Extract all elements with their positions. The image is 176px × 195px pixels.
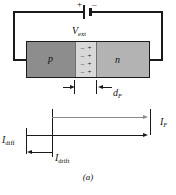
idrift-label: Idrift [55, 148, 70, 164]
p-region-label: p [48, 54, 53, 64]
battery-negative-plate [89, 8, 92, 16]
wire-left-vertical [13, 11, 15, 60]
idrift-subscript: drift [58, 157, 69, 164]
charge-row: –+ [75, 53, 97, 60]
charge-minus: – [79, 61, 86, 68]
wire-top-left [13, 11, 83, 13]
idiff-subscript: diff [5, 139, 14, 146]
if-label: IF [160, 112, 167, 128]
n-region-label: n [115, 55, 120, 65]
wire-top-right [92, 11, 162, 13]
current-reference-line-right [150, 109, 151, 135]
battery-positive-plate [83, 5, 85, 19]
idiff-arrowhead [143, 133, 148, 137]
charge-row: –+ [75, 61, 97, 68]
semiconductor-block: –+ –+ –+ –+ [26, 41, 150, 78]
figure-caption: (a) [0, 173, 176, 182]
charge-plus: + [86, 53, 93, 60]
if-subscript: F [163, 121, 167, 128]
charge-minus: – [79, 45, 86, 52]
wire-right-vertical [161, 11, 163, 60]
depletion-width-arrowhead [70, 85, 75, 89]
if-arrowhead [143, 115, 148, 119]
idrift-arrowhead [27, 150, 32, 154]
df-label: dF [113, 83, 122, 99]
n-region [97, 42, 149, 77]
wire-left-lead [13, 59, 27, 61]
if-arrow-shaft [52, 117, 145, 118]
depletion-region: –+ –+ –+ –+ [75, 42, 97, 77]
idiff-label: Idiff [2, 130, 15, 146]
idiff-arrow-shaft [26, 135, 145, 136]
idrift-arrow-shaft [31, 152, 52, 153]
charge-row: –+ [75, 69, 97, 76]
vext-label: Vext [72, 21, 86, 37]
charge-plus: + [86, 45, 93, 52]
charge-minus: – [79, 69, 86, 76]
wire-right-lead [149, 59, 163, 61]
vext-subscript: ext [78, 30, 86, 37]
pn-junction-figure: + – Vext –+ –+ –+ –+ p n [0, 0, 176, 195]
charge-plus: + [86, 69, 93, 76]
charge-row: –+ [75, 45, 97, 52]
battery-minus-sign: – [92, 0, 97, 9]
df-dimension-line [102, 87, 112, 88]
dimension-tick-right [96, 80, 97, 94]
charge-minus: – [79, 53, 86, 60]
charge-plus: + [86, 61, 93, 68]
battery-plus-sign: + [77, 0, 82, 9]
df-subscript: F [118, 92, 122, 99]
